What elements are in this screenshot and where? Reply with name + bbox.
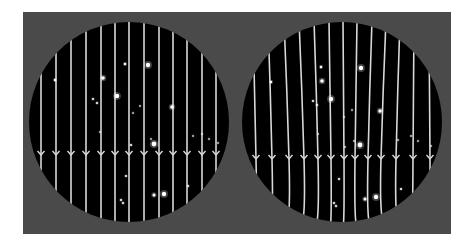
star [351,109,353,111]
star [124,63,126,65]
lensing-figure [0,0,472,248]
star [410,135,412,137]
star [192,135,194,137]
star [320,79,324,83]
star [374,195,378,199]
star [170,105,174,109]
star [338,178,340,180]
star [312,100,314,102]
star [353,140,355,142]
star [132,112,134,114]
star [201,133,203,135]
star [217,142,219,144]
star [358,143,363,148]
star [115,94,119,98]
star [417,140,419,142]
star [125,175,127,177]
left-sky-undistorted [29,20,229,224]
star [316,104,318,106]
star [54,79,56,81]
star [162,192,166,196]
star [430,145,432,147]
star [139,105,141,107]
star [329,97,333,101]
star [270,81,272,83]
star [344,146,346,148]
star [92,98,94,100]
star [359,66,363,70]
star [99,131,101,133]
star [150,138,152,140]
star [378,109,382,113]
star [120,199,122,201]
star [397,139,399,141]
star [152,142,157,147]
star [317,133,319,135]
star [96,102,98,104]
star [146,63,150,67]
star [101,76,105,80]
star [343,116,345,118]
star [335,205,337,207]
star [153,194,156,197]
star [364,198,367,201]
star [130,144,132,146]
figure-canvas [0,0,472,248]
star [187,185,189,187]
star [208,138,210,140]
star [400,188,402,190]
star [333,202,335,204]
star [122,202,124,204]
star [320,66,322,68]
